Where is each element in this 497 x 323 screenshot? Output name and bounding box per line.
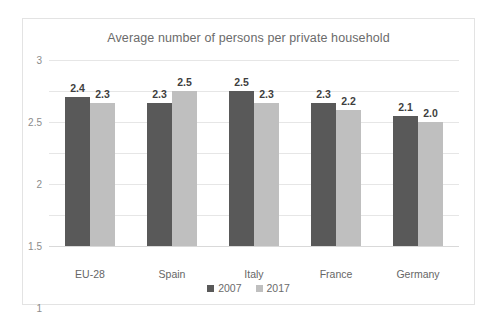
bar-column[interactable]: 2.3 [311, 60, 336, 246]
bar-value-label: 2.5 [234, 76, 249, 88]
legend-label: 2007 [218, 282, 241, 294]
bar-column[interactable]: 2.3 [90, 60, 115, 246]
bar[interactable] [393, 116, 418, 246]
x-axis-category-labels: EU-28SpainItalyFranceGermany [49, 268, 459, 280]
bar-value-label: 2.5 [177, 76, 192, 88]
y-axis-tick-label: 2 [36, 179, 42, 190]
bar[interactable] [172, 91, 197, 246]
bar-value-label: 2.2 [341, 95, 356, 107]
bar[interactable] [418, 122, 443, 246]
chart-container: Average number of persons per private ho… [22, 18, 475, 305]
bar-column[interactable]: 2.2 [336, 60, 361, 246]
chart-legend: 20072017 [23, 282, 474, 294]
y-axis-tick-label: 3 [36, 55, 42, 66]
bar-value-label: 2.3 [259, 88, 274, 100]
bar-group: 2.52.3 [229, 60, 279, 246]
y-axis-tick-label: 1.5 [28, 241, 42, 252]
bar-value-label: 2.3 [95, 88, 110, 100]
bar-group: 2.32.2 [311, 60, 361, 246]
chart-title: Average number of persons per private ho… [23, 31, 474, 45]
bar-column[interactable]: 2.5 [229, 60, 254, 246]
bar-value-label: 2.3 [152, 88, 167, 100]
bar-group: 2.32.5 [147, 60, 197, 246]
bar[interactable] [336, 110, 361, 246]
bar-column[interactable]: 2.4 [65, 60, 90, 246]
legend-swatch-icon [207, 285, 214, 292]
legend-item[interactable]: 2007 [207, 282, 241, 294]
bar-column[interactable]: 2.0 [418, 60, 443, 246]
bar-value-label: 2.0 [423, 107, 438, 119]
bar[interactable] [90, 103, 115, 246]
bar[interactable] [311, 103, 336, 246]
gridline: 0 [49, 246, 459, 247]
legend-label: 2017 [267, 282, 290, 294]
bar[interactable] [65, 97, 90, 246]
legend-swatch-icon [256, 285, 263, 292]
x-axis-category-label: Italy [213, 268, 295, 280]
bar-value-label: 2.1 [398, 101, 413, 113]
x-axis-category-label: France [295, 268, 377, 280]
bar-group: 2.42.3 [65, 60, 115, 246]
x-axis-category-label: Germany [377, 268, 459, 280]
bar[interactable] [254, 103, 279, 246]
x-axis-category-label: EU-28 [49, 268, 131, 280]
x-axis-category-label: Spain [131, 268, 213, 280]
bar[interactable] [147, 103, 172, 246]
y-axis-tick-label: 1 [36, 303, 42, 314]
y-axis-tick-label: 2.5 [28, 117, 42, 128]
legend-item[interactable]: 2017 [256, 282, 290, 294]
bar-column[interactable]: 2.3 [147, 60, 172, 246]
bar-column[interactable]: 2.1 [393, 60, 418, 246]
bar-column[interactable]: 2.5 [172, 60, 197, 246]
bar[interactable] [229, 91, 254, 246]
bar-value-label: 2.4 [70, 82, 85, 94]
bar-group: 2.12.0 [393, 60, 443, 246]
bar-series-group: 2.42.32.32.52.52.32.32.22.12.0 [49, 60, 459, 246]
bar-value-label: 2.3 [316, 88, 331, 100]
plot-area: 00.511.522.53 2.42.32.32.52.52.32.32.22.… [49, 60, 459, 246]
bar-column[interactable]: 2.3 [254, 60, 279, 246]
